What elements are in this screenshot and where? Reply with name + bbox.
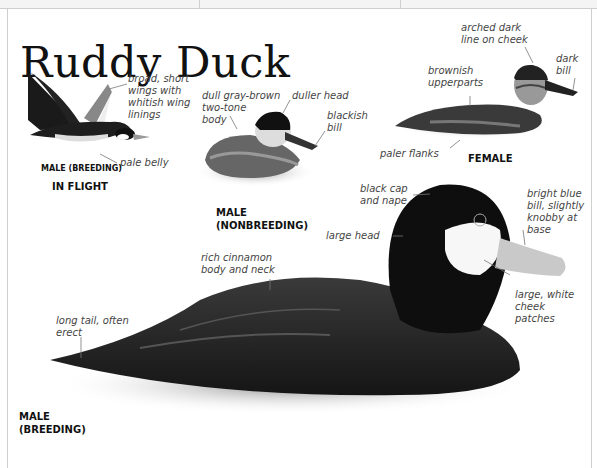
label-nonbreeding-body: dull gray-brown two-tone body — [202, 90, 280, 126]
label-flight-belly: pale belly — [120, 157, 169, 169]
label-breeding-cheek: large, white cheek patches — [515, 289, 574, 325]
label-breeding-head: large head — [326, 230, 380, 242]
label-female-bill: dark bill — [556, 53, 578, 77]
label-female-flanks: paler flanks — [380, 148, 439, 160]
label-female-upperparts: brownish upperparts — [428, 65, 483, 89]
caption-flight-sex: MALE (BREEDING) — [41, 162, 122, 175]
label-flight-wings: broad, short wings with whitish wing lin… — [128, 73, 190, 121]
caption-female: FEMALE — [468, 152, 513, 165]
caption-nonbreeding: MALE (NONBREEDING) — [216, 206, 308, 232]
label-nonbreeding-head: duller head — [292, 90, 349, 102]
label-nonbreeding-bill: blackish bill — [327, 110, 368, 134]
label-female-cheek: arched dark line on cheek — [461, 22, 528, 46]
label-breeding-body: rich cinnamon body and neck — [201, 252, 275, 276]
caption-flight-view: IN FLIGHT — [52, 180, 108, 193]
label-breeding-bill: bright blue bill, slightly knobby at bas… — [527, 188, 584, 236]
label-breeding-cap: black cap and nape — [360, 183, 408, 207]
label-breeding-tail: long tail, often erect — [56, 315, 129, 339]
table-divider — [199, 0, 200, 8]
table-divider — [400, 0, 401, 8]
caption-breeding: MALE (BREEDING) — [19, 410, 86, 436]
